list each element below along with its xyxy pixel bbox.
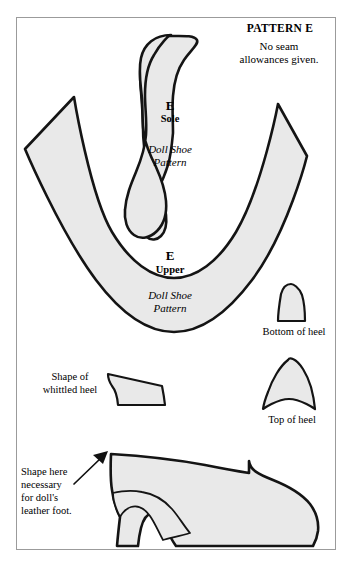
annotation-arrow-head (93, 451, 108, 464)
top-of-heel-shape (263, 358, 315, 409)
sole-name-label: Sole (148, 113, 192, 125)
bottom-of-heel-shape (278, 284, 305, 321)
upper-name-label: Upper (145, 264, 195, 276)
upper-letter-label: E (150, 248, 190, 263)
pattern-sheet: PATTERN E No seam allowances given. E So… (0, 0, 352, 570)
shoe-profile-annotation: Shape here necessary for doll's leather … (21, 465, 107, 518)
whittled-heel-shape (108, 374, 165, 405)
top-of-heel-label: Top of heel (252, 414, 332, 426)
sole-subtitle-label: Doll Shoe Pattern (137, 143, 203, 170)
bottom-of-heel-label: Bottom of heel (254, 326, 334, 338)
sole-letter-label: E (150, 98, 190, 113)
upper-subtitle-label: Doll Shoe Pattern (137, 289, 203, 316)
page-title: PATTERN E (228, 22, 332, 36)
seam-allowance-note: No seam allowances given. (222, 40, 336, 67)
whittled-heel-label: Shape of whittled heel (28, 370, 112, 396)
